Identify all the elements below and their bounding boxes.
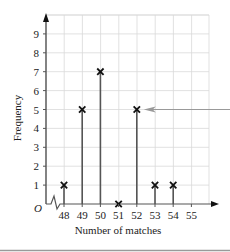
x-tick-label: 50 [95, 209, 107, 221]
y-tick-label: 9 [34, 28, 40, 40]
y-tick-label: 2 [34, 160, 40, 172]
x-tick-label: 49 [77, 209, 89, 221]
x-axis-label: Number of matches [75, 224, 162, 236]
y-tick-label: 7 [34, 66, 40, 78]
frequency-chart: 1234567894849505152535455 Number of matc… [0, 0, 230, 252]
x-tick-label: 48 [59, 209, 71, 221]
x-tick-label: 54 [168, 209, 180, 221]
y-tick-label: 3 [34, 141, 40, 153]
y-axis-label: Frequency [11, 94, 23, 141]
y-tick-label: 1 [34, 179, 40, 191]
x-tick-label: 55 [186, 209, 198, 221]
y-tick-label: 5 [34, 104, 40, 116]
annotation-arrow [144, 107, 230, 113]
x-tick-label: 53 [150, 209, 162, 221]
x-tick-label: 52 [131, 209, 142, 221]
axes [43, 13, 219, 209]
y-tick-label: 4 [34, 122, 40, 134]
x-tick-label: 51 [113, 209, 124, 221]
y-tick-label: 6 [34, 85, 40, 97]
y-tick-label: 8 [34, 47, 40, 59]
origin-label: O [34, 202, 42, 214]
